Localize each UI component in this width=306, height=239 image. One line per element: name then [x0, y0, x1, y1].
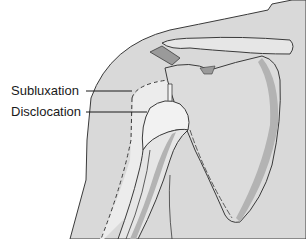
shoulder-illustration	[0, 0, 306, 239]
label-subluxation: Subluxation	[11, 84, 79, 97]
shoulder-diagram: Subluxation Disclocation	[0, 0, 306, 239]
label-disclocation: Disclocation	[11, 105, 81, 118]
